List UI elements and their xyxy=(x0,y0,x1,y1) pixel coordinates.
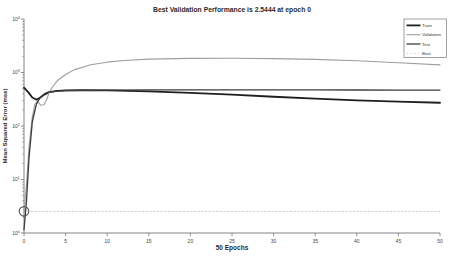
y-tick-label: 101 xyxy=(12,176,20,182)
legend-label-validation: Validation xyxy=(422,32,442,37)
chart-title: Best Validation Performance is 2.5444 at… xyxy=(153,6,311,14)
series-test xyxy=(24,90,440,230)
x-tick-label: 30 xyxy=(271,238,277,244)
y-tick-label: 100 xyxy=(12,230,20,236)
performance-chart: Best Validation Performance is 2.5444 at… xyxy=(0,0,449,262)
x-tick-label: 5 xyxy=(64,238,67,244)
y-tick-label: 103 xyxy=(12,69,20,75)
series-validation xyxy=(24,58,440,211)
axis-spines xyxy=(24,19,440,233)
performance-figure-window: Best Validation Performance is 2.5444 at… xyxy=(0,0,449,262)
x-tick-label: 25 xyxy=(229,238,235,244)
legend-label-train: Train xyxy=(422,23,432,28)
data-series xyxy=(24,58,440,229)
legend-label-test: Test xyxy=(422,42,431,47)
y-tick-label: 102 xyxy=(12,123,20,129)
x-tick-label: 20 xyxy=(188,238,194,244)
y-axis-ticks: 100101102103104 xyxy=(12,16,24,236)
x-tick-label: 10 xyxy=(104,238,110,244)
legend: TrainValidationTestBest xyxy=(404,19,447,58)
x-tick-label: 15 xyxy=(146,238,152,244)
axes xyxy=(24,19,440,233)
x-tick-label: 45 xyxy=(396,238,402,244)
x-tick-label: 0 xyxy=(23,238,26,244)
x-axis-label: 50 Epochs xyxy=(216,244,249,252)
legend-label-best: Best xyxy=(422,51,432,56)
x-axis-ticks: 05101520253035404550 xyxy=(23,233,443,244)
x-tick-label: 35 xyxy=(312,238,318,244)
x-tick-label: 40 xyxy=(354,238,360,244)
x-tick-label: 50 xyxy=(437,238,443,244)
y-tick-label: 104 xyxy=(12,16,20,22)
y-axis-label: Mean Squared Error (mse) xyxy=(2,88,8,163)
